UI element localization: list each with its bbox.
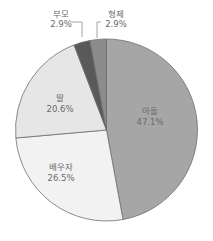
label-daughter-name: 딸: [56, 93, 64, 103]
leader-line-siblings: [97, 22, 101, 38]
label-siblings-pct: 2.9%: [105, 19, 127, 29]
label-siblings-name: 형제: [108, 9, 124, 19]
pie-slice-0: [107, 39, 198, 219]
label-son-pct: 47.1%: [136, 117, 163, 127]
label-spouse-name: 배우자: [49, 162, 73, 172]
pie-chart: 부모 2.9% 형제 2.9% 아들 47.1% 딸 20.6% 배우자 26.…: [0, 0, 213, 241]
label-parents-pct: 2.9%: [50, 19, 72, 29]
label-spouse-pct: 26.5%: [47, 173, 74, 183]
label-parents-name: 부모: [53, 9, 69, 19]
label-son-name: 아들: [142, 106, 158, 116]
label-daughter-pct: 20.6%: [46, 104, 73, 114]
pie-slices: [15, 39, 197, 221]
